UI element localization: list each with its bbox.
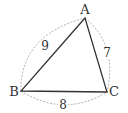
triangle-diagram: A B C 9 7 8: [0, 0, 128, 113]
triangle-abc: [21, 18, 107, 92]
vertex-label-c: C: [109, 84, 119, 99]
vertex-label-b: B: [9, 84, 19, 99]
vertex-label-a: A: [79, 2, 90, 17]
side-length-ac: 7: [103, 46, 111, 60]
side-length-ab: 9: [41, 39, 49, 53]
side-length-bc: 8: [59, 98, 67, 112]
